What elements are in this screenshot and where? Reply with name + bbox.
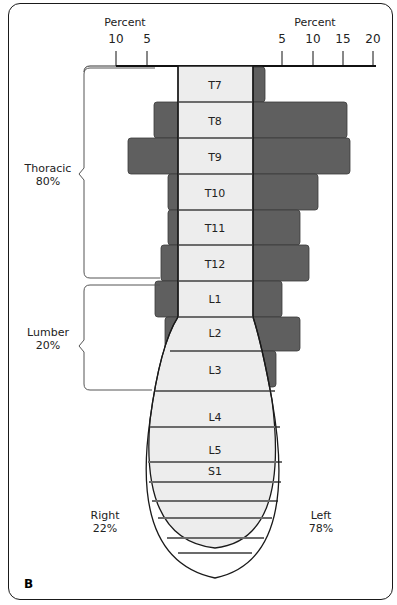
tick-right-15: 15 (331, 33, 355, 46)
bars-left-series (246, 67, 350, 387)
vertebra-label-t7: T7 (190, 79, 240, 92)
lumber-label: Lumber 20% (18, 326, 78, 352)
vertebra-label-s1: S1 (190, 465, 240, 478)
tick-left-5: 5 (137, 33, 157, 46)
x-axis (116, 51, 376, 66)
left-percent: 78% (296, 522, 346, 535)
right-total-label: Right 22% (80, 509, 130, 535)
axis-corner (84, 66, 116, 72)
vertebra-label-l4: L4 (190, 411, 240, 424)
lumber-name: Lumber (18, 326, 78, 339)
panel-label: B (24, 577, 33, 591)
axis-label-right: Percent (290, 16, 340, 29)
right-name: Right (80, 509, 130, 522)
vertebra-label-t12: T12 (190, 258, 240, 271)
tick-right-20: 20 (361, 33, 385, 46)
vertebra-label-t8: T8 (190, 115, 240, 128)
bars-right-series (128, 102, 184, 351)
tick-right-5: 5 (272, 33, 292, 46)
vertebra-label-l2: L2 (190, 327, 240, 340)
right-percent: 22% (80, 522, 130, 535)
vertebra-label-l3: L3 (190, 364, 240, 377)
left-total-label: Left 78% (296, 509, 346, 535)
vertebra-label-l1: L1 (190, 293, 240, 306)
tick-left-10: 10 (104, 33, 128, 46)
tick-right-10: 10 (301, 33, 325, 46)
axis-label-left: Percent (100, 16, 150, 29)
lumber-percent: 20% (18, 339, 78, 352)
thoracic-label: Thoracic 80% (18, 162, 78, 188)
thoracic-name: Thoracic (18, 162, 78, 175)
vertebra-label-t10: T10 (190, 187, 240, 200)
left-name: Left (296, 509, 346, 522)
thoracic-percent: 80% (18, 175, 78, 188)
vertebra-label-t9: T9 (190, 151, 240, 164)
vertebra-label-l5: L5 (190, 444, 240, 457)
vertebra-label-t11: T11 (190, 222, 240, 235)
group-braces (79, 68, 160, 390)
